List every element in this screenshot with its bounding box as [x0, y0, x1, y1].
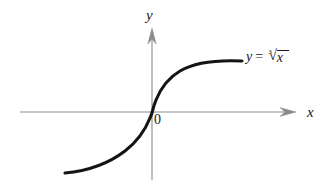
radicand-variable: x: [276, 51, 285, 65]
curve-equation-label: y = 3 √ x: [246, 50, 285, 65]
equation-equals-sign: =: [255, 50, 263, 64]
x-axis-label: x: [307, 105, 314, 120]
cube-root-radical: 3 √ x: [266, 50, 285, 65]
radical-index: 3: [268, 49, 272, 56]
equation-lhs-variable: y: [246, 50, 252, 64]
graph-canvas: [0, 0, 331, 192]
origin-label: 0: [154, 113, 161, 127]
cube-root-function-figure: y x 0 y = 3 √ x: [0, 0, 331, 192]
y-axis-label: y: [146, 8, 153, 23]
radical-vinculum: [277, 50, 289, 51]
